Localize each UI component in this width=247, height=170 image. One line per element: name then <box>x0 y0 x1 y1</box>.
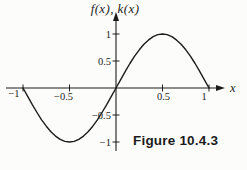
x-tick-label: −0.5 <box>54 91 73 102</box>
plot-svg: −1−0.50.51 10.5−0.5−1 f(x), k(x) x Figur… <box>0 0 247 170</box>
figure-caption: Figure 10.4.3 <box>133 133 218 148</box>
figure-panel: −1−0.50.51 10.5−0.5−1 f(x), k(x) x Figur… <box>0 0 247 170</box>
x-tick-label: 0.5 <box>157 91 170 102</box>
y-axis-title: f(x), k(x) <box>91 1 140 16</box>
x-axis-arrow-icon <box>216 85 225 91</box>
x-tick-label: 1 <box>201 91 206 102</box>
y-tick-label: −1 <box>100 137 111 148</box>
y-tick-label: −0.5 <box>92 110 111 121</box>
x-tick-label: −1 <box>8 88 19 99</box>
x-axis-title: x <box>229 81 236 95</box>
y-tick-label: 1 <box>106 29 111 40</box>
x-axis-ticks: −1−0.50.51 <box>8 85 209 103</box>
y-tick-label: 0.5 <box>98 56 111 67</box>
